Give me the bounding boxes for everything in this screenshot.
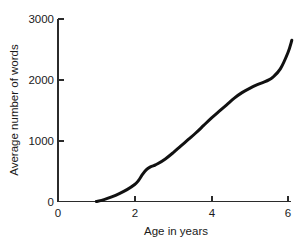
y-tick-label-0: 0 xyxy=(48,196,54,208)
x-tick-label-2: 2 xyxy=(132,207,138,219)
x-axis-title: Age in years xyxy=(144,225,208,237)
x-tick-label-4: 4 xyxy=(209,207,216,219)
x-tick-label-0: 0 xyxy=(55,207,61,219)
line-chart-canvas: 3000 2000 1000 0 0 2 4 6 Age in years Av… xyxy=(0,0,300,241)
x-tick-label-6: 6 xyxy=(285,207,291,219)
chart-figure: 3000 2000 1000 0 0 2 4 6 Age in years Av… xyxy=(0,0,300,241)
y-tick-label-3000: 3000 xyxy=(28,13,54,25)
y-tick-label-2000: 2000 xyxy=(28,74,54,86)
y-axis-title: Average number of words xyxy=(8,44,20,176)
y-tick-label-1000: 1000 xyxy=(28,135,54,147)
data-series-line xyxy=(96,40,291,201)
